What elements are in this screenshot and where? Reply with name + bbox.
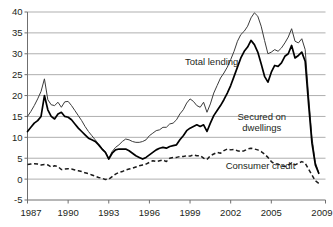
y-tick-label: 0 [17,174,22,185]
x-tick-label: 2002 [220,207,241,218]
x-tick-label: 2009 [311,207,332,218]
x-tick-label: 1993 [98,207,119,218]
x-axis-tick-labels: 19871990199319961999200220052009 [21,207,333,218]
gridlines [28,12,326,179]
x-tick-label: 1996 [139,207,160,218]
annotation-label: Total lending [185,56,238,67]
x-tick-label: 1999 [179,207,200,218]
x-tick-label: 2005 [261,207,282,218]
series-annotations: Total lendingSecured ondwellingsConsumer… [185,56,296,171]
x-tick-label: 1987 [21,207,42,218]
chart-container: 4035302520151050-5 198719901993199619992… [0,0,333,227]
y-tick-label: 30 [12,48,23,59]
data-series [28,13,319,183]
y-axis-tick-labels: 4035302520151050-5 [12,6,23,205]
y-tick-label: 5 [17,153,22,164]
y-tick-label: 20 [12,90,23,101]
y-tick-label: 25 [12,69,23,80]
series-line-total-lending [28,13,319,173]
annotation-label: dwellings [242,122,281,133]
axes [25,12,326,204]
y-tick-label: 35 [12,27,23,38]
annotation-label: Secured on [238,111,287,122]
line-chart: 4035302520151050-5 198719901993199619992… [0,0,333,227]
y-tick-label: 15 [12,111,23,122]
x-tick-label: 1990 [58,207,79,218]
y-tick-label: -5 [14,194,22,205]
y-tick-label: 40 [12,6,23,17]
series-line-secured-on-dwellings [28,40,319,173]
y-tick-label: 10 [12,132,23,143]
annotation-label: Consumer credit [226,160,296,171]
